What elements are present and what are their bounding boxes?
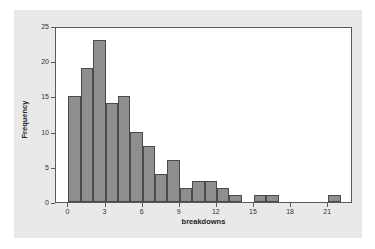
x-axis-label: breakdowns — [55, 217, 352, 226]
x-tick-mark — [290, 203, 291, 207]
y-tick-label: 5 — [27, 164, 49, 171]
histogram-bar — [93, 40, 105, 202]
x-tick-mark — [327, 203, 328, 207]
y-tick-label: 25 — [27, 23, 49, 30]
x-tick-mark — [179, 203, 180, 207]
y-tick-label: 10 — [27, 129, 49, 136]
x-tick-label: 12 — [206, 208, 226, 215]
x-tick-label: 18 — [280, 208, 300, 215]
histogram-bar — [192, 181, 204, 202]
bar-series — [56, 28, 351, 202]
y-tick-label: 15 — [27, 93, 49, 100]
histogram-bar — [266, 195, 278, 202]
histogram-bar — [180, 188, 192, 202]
x-tick-mark — [67, 203, 68, 207]
histogram-bar — [217, 188, 229, 202]
histogram-bar — [81, 68, 93, 202]
histogram-bar — [68, 96, 80, 202]
x-tick-label: 15 — [243, 208, 263, 215]
x-tick-label: 6 — [132, 208, 152, 215]
histogram-bar — [130, 132, 142, 202]
x-tick-mark — [216, 203, 217, 207]
x-tick-label: 9 — [169, 208, 189, 215]
x-tick-mark — [253, 203, 254, 207]
y-tick-label: 0 — [27, 199, 49, 206]
histogram-bar — [143, 146, 155, 202]
x-tick-label: 3 — [95, 208, 115, 215]
y-tick-label: 20 — [27, 58, 49, 65]
histogram-bar — [167, 160, 179, 202]
histogram-bar — [106, 103, 118, 202]
y-tick-mark — [51, 203, 55, 204]
plot-area — [55, 27, 352, 203]
histogram-figure: Frequency breakdowns 0510152025036912151… — [0, 0, 375, 249]
histogram-bar — [328, 195, 340, 202]
histogram-bar — [205, 181, 217, 202]
x-tick-label: 21 — [317, 208, 337, 215]
histogram-bar — [254, 195, 266, 202]
x-tick-mark — [142, 203, 143, 207]
histogram-bar — [118, 96, 130, 202]
histogram-bar — [155, 174, 167, 202]
x-tick-label: 0 — [57, 208, 77, 215]
histogram-bar — [229, 195, 241, 202]
x-tick-mark — [105, 203, 106, 207]
